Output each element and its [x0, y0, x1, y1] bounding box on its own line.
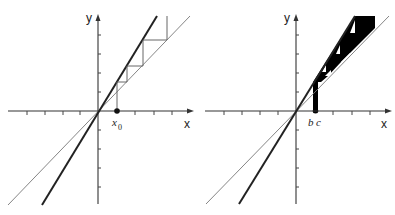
left-x-axis-arrow-icon: [187, 109, 194, 114]
right-y-axis-arrow-icon: [294, 14, 299, 21]
left-cobweb-staircase: [117, 16, 167, 111]
right-x-axis-arrow-icon: [385, 109, 392, 114]
left-y-axis-label: y: [86, 11, 92, 25]
left-point-label-subscript: 0: [118, 123, 122, 132]
interval-label-b: b: [308, 116, 314, 128]
left-x-axis-label: x: [184, 117, 190, 131]
left-point-label: x: [111, 116, 117, 128]
interval-label-c: c: [316, 116, 321, 128]
right-x-axis-label: x: [381, 117, 387, 131]
right-y-axis-label: y: [284, 11, 290, 25]
figure-canvas: y x x 0: [0, 0, 395, 215]
right-steep-line: [239, 16, 355, 204]
left-start-point-icon: [114, 108, 120, 114]
right-panel: y x b c: [205, 11, 392, 204]
right-filled-region: [313, 16, 375, 114]
left-y-axis-arrow-icon: [96, 14, 101, 21]
left-panel: y x x 0: [8, 11, 194, 205]
